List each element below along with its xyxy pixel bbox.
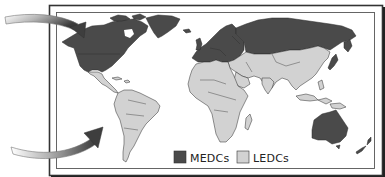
legend-swatch-medcs <box>174 151 186 163</box>
legend-label-medcs: MEDCs <box>190 152 229 165</box>
legend-swatch-ledcs <box>237 151 249 163</box>
legend-label-ledcs: LEDCs <box>253 152 289 165</box>
world-map-figure: MEDCs LEDCs <box>0 0 385 177</box>
